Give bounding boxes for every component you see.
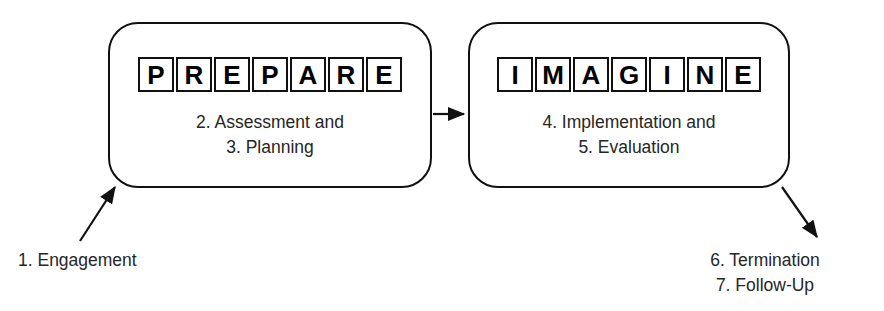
letter-cell: R [328, 57, 364, 92]
caption-line: 1. Engagement [18, 248, 137, 273]
letter-cell: I [649, 57, 685, 92]
letter-cell: E [366, 57, 402, 92]
letter-cell: N [687, 57, 723, 92]
stage-prepare-description: 2. Assessment and 3. Planning [196, 110, 344, 161]
acronym-prepare: P R E P A R E [138, 57, 402, 92]
caption-engagement: 1. Engagement [18, 248, 137, 273]
letter-cell: P [252, 57, 288, 92]
letter-cell: M [535, 57, 571, 92]
acronym-imagine: I M A G I N E [497, 57, 761, 92]
stage-line: 5. Evaluation [542, 135, 715, 160]
letter-cell: R [176, 57, 212, 92]
caption-line: 6. Termination [660, 248, 870, 273]
stage-imagine: I M A G I N E 4. Implementation and 5. E… [468, 22, 790, 188]
letter-cell: E [214, 57, 250, 92]
connector-engagement-into-prepare [80, 187, 115, 241]
letter-cell: G [611, 57, 647, 92]
connector-imagine-to-termination [782, 187, 817, 237]
stage-imagine-description: 4. Implementation and 5. Evaluation [542, 110, 715, 161]
caption-line: 7. Follow-Up [660, 273, 870, 298]
letter-cell: A [573, 57, 609, 92]
stage-line: 4. Implementation and [542, 110, 715, 135]
stage-line: 2. Assessment and [196, 110, 344, 135]
letter-cell: P [138, 57, 174, 92]
letter-cell: E [725, 57, 761, 92]
stage-line: 3. Planning [196, 135, 344, 160]
letter-cell: A [290, 57, 326, 92]
letter-cell: I [497, 57, 533, 92]
caption-termination-followup: 6. Termination 7. Follow-Up [660, 248, 870, 299]
stage-prepare: P R E P A R E 2. Assessment and 3. Plann… [108, 22, 432, 188]
